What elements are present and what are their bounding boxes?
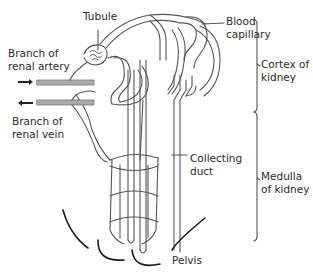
vein-arrow-icon <box>18 100 33 106</box>
pelvis-curve-3 <box>132 250 160 265</box>
renal-vein-label: Branch of renal vein <box>12 115 64 140</box>
kidney-nephron-diagram: Tubule Blood capillary Branch of renal a… <box>0 0 313 276</box>
collecting-duct-label: Collecting duct <box>190 152 242 177</box>
tubule-label: Tubule <box>83 10 117 23</box>
cortex-label: Cortex of kidney <box>261 58 309 83</box>
pelvis-curve-1 <box>63 210 88 248</box>
artery-arrow-icon <box>18 79 33 85</box>
pelvis-curve-2 <box>98 240 124 260</box>
blood-capillary-label: Blood capillary <box>226 15 271 40</box>
medulla-label: Medulla of kidney <box>261 170 309 195</box>
pelvis-curve-4 <box>172 218 205 250</box>
renal-artery-label: Branch of renal artery <box>8 47 70 72</box>
medulla-bracket <box>254 112 257 241</box>
pelvis-label: Pelvis <box>172 254 202 267</box>
